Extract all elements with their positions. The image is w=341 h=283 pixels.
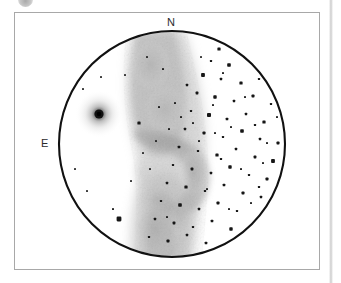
star bbox=[178, 146, 181, 149]
star bbox=[254, 124, 256, 126]
star bbox=[162, 68, 164, 70]
star bbox=[130, 180, 132, 182]
star bbox=[154, 218, 156, 220]
star bbox=[266, 178, 269, 181]
star bbox=[258, 186, 260, 188]
star bbox=[200, 56, 202, 58]
star bbox=[172, 164, 174, 166]
star bbox=[215, 153, 218, 156]
star bbox=[212, 104, 214, 106]
star bbox=[270, 103, 272, 105]
star bbox=[245, 113, 247, 115]
star bbox=[217, 47, 220, 50]
figure-frame: N E bbox=[14, 12, 320, 270]
east-label: E bbox=[41, 138, 49, 149]
star bbox=[226, 118, 229, 121]
star bbox=[148, 236, 150, 238]
star bbox=[198, 140, 200, 142]
star bbox=[235, 148, 237, 150]
star bbox=[230, 126, 232, 128]
star bbox=[203, 132, 206, 135]
star bbox=[100, 76, 102, 78]
star bbox=[112, 208, 114, 210]
star bbox=[166, 182, 168, 184]
star bbox=[262, 120, 265, 123]
star bbox=[222, 136, 224, 138]
star bbox=[155, 140, 157, 142]
star bbox=[271, 159, 275, 163]
star bbox=[244, 96, 246, 98]
star bbox=[236, 210, 238, 212]
star bbox=[124, 74, 126, 76]
star bbox=[277, 142, 280, 145]
star bbox=[229, 227, 232, 230]
star bbox=[201, 73, 205, 77]
star bbox=[248, 174, 250, 176]
star bbox=[254, 156, 257, 159]
star bbox=[217, 202, 220, 205]
star bbox=[149, 168, 151, 170]
star bbox=[173, 222, 176, 225]
star bbox=[211, 220, 214, 223]
star bbox=[192, 226, 194, 228]
star bbox=[186, 234, 188, 236]
page-canvas: N E bbox=[0, 0, 341, 283]
star bbox=[252, 95, 255, 98]
star bbox=[214, 132, 216, 134]
star bbox=[160, 200, 162, 202]
star bbox=[220, 158, 222, 160]
star bbox=[158, 106, 160, 108]
star bbox=[191, 168, 194, 171]
star bbox=[206, 188, 208, 190]
star bbox=[197, 150, 199, 152]
star bbox=[184, 128, 186, 130]
star bbox=[266, 142, 268, 144]
star bbox=[223, 184, 226, 187]
star bbox=[205, 242, 208, 245]
star bbox=[239, 81, 242, 84]
star bbox=[228, 208, 230, 210]
star bbox=[178, 203, 182, 207]
star bbox=[210, 60, 212, 62]
column-separator-rule bbox=[329, 0, 333, 283]
star bbox=[204, 190, 206, 192]
star bbox=[180, 116, 182, 118]
north-label: N bbox=[167, 17, 175, 28]
star bbox=[210, 172, 212, 174]
page-corner-mark bbox=[18, 0, 33, 7]
star bbox=[74, 168, 76, 170]
star bbox=[174, 102, 176, 104]
star bbox=[166, 216, 168, 218]
star bbox=[186, 84, 188, 86]
astronomical-sketch bbox=[15, 13, 319, 269]
star bbox=[242, 192, 245, 195]
star bbox=[198, 208, 200, 210]
star bbox=[250, 202, 252, 204]
star bbox=[240, 129, 244, 133]
star bbox=[227, 63, 231, 67]
star bbox=[220, 78, 222, 80]
star bbox=[184, 185, 187, 188]
star bbox=[142, 152, 144, 154]
star bbox=[192, 122, 194, 124]
star bbox=[207, 113, 211, 117]
star bbox=[276, 116, 278, 118]
star bbox=[233, 100, 235, 102]
star bbox=[258, 78, 260, 80]
star bbox=[168, 128, 170, 130]
globular-cluster bbox=[75, 90, 123, 138]
star bbox=[167, 240, 170, 243]
star bbox=[222, 72, 224, 74]
star bbox=[240, 168, 242, 170]
star bbox=[259, 138, 261, 140]
star bbox=[228, 165, 231, 168]
star bbox=[196, 92, 199, 95]
star bbox=[146, 56, 148, 58]
star bbox=[190, 110, 192, 112]
star bbox=[262, 162, 264, 164]
star bbox=[82, 88, 84, 90]
star bbox=[213, 95, 216, 98]
star bbox=[86, 190, 88, 192]
star bbox=[137, 121, 140, 124]
star bbox=[117, 217, 122, 222]
